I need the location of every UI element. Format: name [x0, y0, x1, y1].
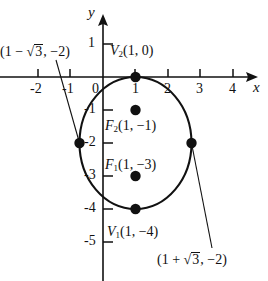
label-covertex-left-radicand: 3 — [34, 44, 43, 59]
leader-line-right — [192, 143, 213, 248]
label-covertex-left-close: , −2) — [43, 44, 70, 59]
point-vertex-bottom — [130, 204, 140, 214]
y-tick-label--5: -5 — [84, 234, 96, 248]
ellipse-curve — [80, 77, 192, 209]
label-covertex-left: (1 − √3, −2) — [0, 44, 70, 59]
label-vertex-bottom: V1(1, −4) — [107, 225, 158, 240]
x-tick-label-3: 3 — [196, 82, 203, 96]
x-tick-label-2: 2 — [164, 82, 171, 96]
y-axis-label: y — [88, 5, 95, 20]
leader-line-left — [56, 60, 80, 143]
y-tick-label--1: -1 — [84, 102, 96, 116]
point-focus-upper — [130, 105, 140, 115]
y-tick-label-1: 1 — [88, 36, 95, 50]
x-axis-label: x — [253, 80, 260, 95]
y-tick-label--4: -4 — [84, 201, 96, 215]
label-covertex-right: (1 + √3, −2) — [157, 252, 227, 267]
label-focus-upper: F2(1, −1) — [105, 119, 156, 134]
label-focus-lower: F1(1, −3) — [105, 158, 156, 173]
y-tick-label--2: -2 — [84, 135, 96, 149]
x-tick-label-0: 0 — [92, 82, 99, 96]
radical-sign-right-icon: √ — [184, 253, 192, 267]
y-tick-label--3: -3 — [84, 168, 96, 182]
x-tick-label--1: -1 — [62, 82, 74, 96]
x-tick-label-4: 4 — [229, 82, 236, 96]
y-axis — [98, 14, 108, 281]
y-axis-ticks — [103, 44, 113, 242]
ellipse-figure: x y -2 -1 0 1 2 3 4 1 -1 -2 -3 -4 -5 V2(… — [0, 0, 268, 281]
x-tick-label-1: 1 — [132, 82, 139, 96]
label-covertex-right-close: , −2) — [200, 252, 227, 267]
radical-sign-left-icon: √ — [27, 45, 35, 59]
x-tick-label--2: -2 — [30, 82, 42, 96]
point-covertex-right — [186, 138, 196, 148]
label-covertex-right-open: (1 + — [157, 252, 184, 267]
label-covertex-left-open: (1 − — [0, 44, 27, 59]
label-vertex-top: V2(1, 0) — [110, 44, 153, 59]
label-covertex-right-radicand: 3 — [191, 252, 200, 267]
